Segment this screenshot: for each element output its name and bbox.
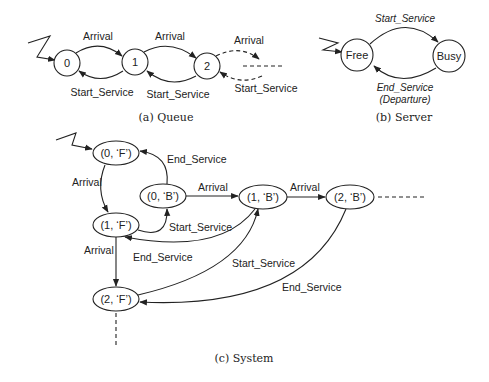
entry-arrow-icon bbox=[319, 38, 342, 52]
entry-arrow-icon bbox=[56, 133, 92, 149]
queue-arrival-label: Arrival bbox=[234, 34, 264, 46]
queue-state-0-label: 0 bbox=[64, 57, 70, 69]
queue-service-label: Start_Service bbox=[70, 86, 133, 98]
label-arrival: Arrival bbox=[72, 176, 102, 188]
server-end-label: End_Service bbox=[377, 82, 434, 93]
label-arrival: Arrival bbox=[290, 181, 320, 193]
entry-arrow-icon bbox=[28, 36, 55, 60]
label-end-service: End_Service bbox=[167, 153, 227, 165]
state-diagram: 0 1 2 Arrival Arrival Arrival Start_Serv… bbox=[0, 0, 489, 382]
queue-service-edge-2-1 bbox=[147, 71, 196, 82]
server-end-sublabel: (Departure) bbox=[379, 94, 430, 105]
queue-arrival-label: Arrival bbox=[83, 30, 113, 42]
queue-service-edge-1-0 bbox=[79, 71, 123, 79]
system-state-0B-label: (0, ‘B’) bbox=[147, 190, 179, 202]
system-caption: (c) System bbox=[215, 352, 275, 365]
label-start-service: Start_Service bbox=[232, 257, 295, 269]
queue-caption: (a) Queue bbox=[139, 111, 194, 124]
system-diagram: (0, ‘F’) (0, ‘B’) (1, ‘F’) (1, ‘B’) (2, … bbox=[56, 133, 425, 365]
server-state-busy-label: Busy bbox=[437, 50, 462, 62]
label-start-service: Start_Service bbox=[169, 221, 232, 233]
system-state-2B-label: (2, ‘B’) bbox=[334, 191, 366, 203]
label-arrival: Arrival bbox=[198, 181, 228, 193]
system-state-2F-label: (2, ‘F’) bbox=[100, 293, 131, 305]
edge-1F-to-0B bbox=[138, 209, 167, 232]
server-caption: (b) Server bbox=[376, 111, 433, 124]
system-state-1F-label: (1, ‘F’) bbox=[100, 219, 131, 231]
edge-0F-to-1F bbox=[101, 165, 108, 212]
queue-service-edge-dashed bbox=[220, 72, 262, 80]
queue-arrival-label: Arrival bbox=[155, 30, 185, 42]
system-state-0F-label: (0, ‘F’) bbox=[100, 147, 131, 159]
queue-arrival-edge-0-1 bbox=[76, 46, 122, 56]
server-start-label: Start_Service bbox=[375, 13, 435, 24]
label-end-service: End_Service bbox=[133, 251, 193, 263]
server-state-free-label: Free bbox=[346, 49, 369, 61]
server-start-edge bbox=[370, 27, 438, 44]
label-arrival: Arrival bbox=[84, 244, 114, 256]
queue-arrival-edge-1-2 bbox=[144, 46, 196, 58]
queue-state-2-label: 2 bbox=[204, 60, 210, 72]
server-diagram: Free Busy Start_Service End_Service (Dep… bbox=[319, 13, 465, 124]
queue-service-label: Start_Service bbox=[146, 88, 209, 100]
label-end-service: End_Service bbox=[282, 281, 342, 293]
edge-0B-to-0F bbox=[140, 151, 167, 184]
queue-service-label: Start_Service bbox=[234, 82, 297, 94]
system-state-1B-label: (1, ‘B’) bbox=[247, 191, 279, 203]
queue-arrival-edge-dashed bbox=[216, 51, 259, 59]
queue-diagram: 0 1 2 Arrival Arrival Arrival Start_Serv… bbox=[28, 30, 298, 124]
server-end-edge bbox=[374, 66, 436, 79]
queue-state-1-label: 1 bbox=[132, 56, 138, 68]
